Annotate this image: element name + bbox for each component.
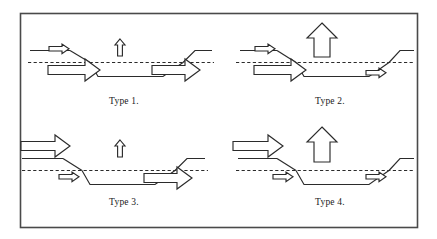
fault-type-diagram: Type 1. Type 2. — [0, 0, 437, 239]
type2-upper-bed-right — [389, 51, 414, 63]
panel-type-2: Type 2. — [236, 23, 415, 106]
type3-label: Type 3. — [109, 197, 139, 207]
type2-label: Type 2. — [315, 96, 345, 106]
type3-fault-plane-left — [63, 159, 82, 171]
type3-hangingwall-large-right-arrow — [21, 135, 70, 157]
panel-type-1: Type 1. — [28, 39, 214, 106]
figure-frame — [21, 14, 418, 228]
figure-container: Type 1. Type 2. — [0, 0, 437, 239]
type4-fault-plane-left — [277, 159, 296, 171]
type2-small-right-arrow-upper — [255, 44, 275, 54]
type4-small-right-arrow-lower — [273, 172, 293, 182]
type1-small-right-arrow-upper — [49, 44, 69, 54]
type4-large-up-arrow — [307, 127, 337, 162]
type4-label: Type 4. — [315, 197, 345, 207]
type4-hangingwall-large-right-arrow — [233, 135, 283, 157]
type3-small-up-arrow — [115, 140, 125, 157]
type3-small-right-arrow-lower — [59, 172, 79, 182]
type4-upper-bed-right — [389, 159, 414, 171]
panel-type-3: Type 3. — [21, 135, 208, 207]
type2-large-up-arrow — [307, 23, 337, 57]
type1-label: Type 1. — [109, 96, 139, 106]
type1-small-up-arrow — [115, 39, 125, 56]
panel-type-4: Type 4. — [233, 127, 415, 207]
